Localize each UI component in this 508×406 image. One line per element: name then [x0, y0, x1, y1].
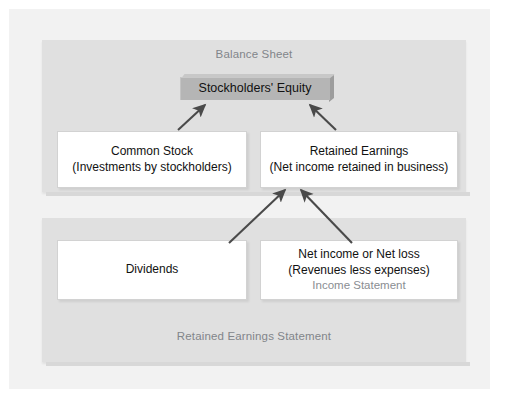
stockholders-equity-bar: Stockholders' Equity	[180, 74, 336, 100]
box-retained-earnings-detail: (Net income retained in business)	[270, 160, 449, 176]
box-dividends-title: Dividends	[126, 262, 179, 278]
region-retained-earnings-statement-shadow	[46, 362, 470, 366]
stockholders-equity-label: Stockholders' Equity	[180, 77, 330, 100]
box-common-stock-title: Common Stock	[111, 144, 193, 160]
box-common-stock-detail: (Investments by stockholders)	[72, 160, 231, 176]
box-dividends: Dividends	[57, 240, 247, 300]
box-net-income-or-net-loss: Net income or Net loss (Revenues less ex…	[260, 240, 458, 300]
box-net-income-subcaption: Income Statement	[312, 278, 405, 293]
box-common-stock: Common Stock (Investments by stockholder…	[57, 131, 247, 188]
diagram-canvas: Balance Sheet Retained Earnings Statemen…	[0, 0, 508, 406]
region-caption-retained-earnings-statement: Retained Earnings Statement	[42, 330, 466, 342]
box-net-income-detail: (Revenues less expenses)	[288, 263, 429, 279]
box-net-income-title: Net income or Net loss	[298, 247, 419, 263]
region-caption-balance-sheet: Balance Sheet	[42, 48, 466, 60]
box-retained-earnings-title: Retained Earnings	[310, 144, 409, 160]
box-retained-earnings: Retained Earnings (Net income retained i…	[260, 131, 458, 188]
region-balance-sheet-shadow	[46, 192, 470, 196]
